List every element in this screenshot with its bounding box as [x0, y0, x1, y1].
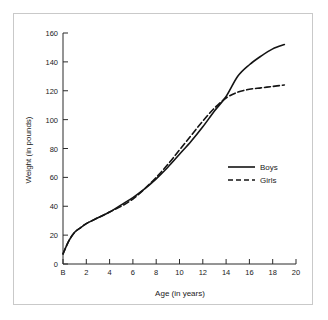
y-tick-label: 160	[45, 29, 58, 38]
series-line-boys	[63, 45, 284, 254]
axis-lines	[63, 33, 296, 264]
x-tick-label: 10	[175, 268, 183, 277]
x-tick-label: 14	[222, 268, 230, 277]
growth-chart: B2468101214161820 020406080100120140160 …	[0, 0, 328, 320]
y-tick-label: 100	[45, 116, 58, 125]
y-axis-title: Weight (in pounds)	[24, 116, 33, 183]
y-tick-label: 120	[45, 87, 58, 96]
x-tick-label: 20	[292, 268, 300, 277]
x-axis-title: Age (in years)	[155, 289, 205, 298]
y-tick-label: 140	[45, 58, 58, 67]
y-tick-label: 80	[50, 145, 58, 154]
y-tick-label: 0	[54, 260, 58, 269]
x-tick-label: 8	[154, 268, 158, 277]
chart-figure: B2468101214161820 020406080100120140160 …	[0, 0, 328, 320]
y-tick-label: 20	[50, 231, 58, 240]
x-tick-label: 16	[245, 268, 253, 277]
x-tick-label: 2	[84, 268, 88, 277]
x-tick-label: 4	[108, 268, 112, 277]
x-tick-label: B	[60, 268, 65, 277]
x-tick-label: 18	[269, 268, 277, 277]
y-tick-label: 40	[50, 202, 58, 211]
x-axis-tick-labels: B2468101214161820	[60, 268, 300, 277]
series-line-girls	[63, 85, 284, 254]
x-axis-ticks	[63, 259, 296, 264]
chart-legend: Boys Girls	[228, 163, 278, 185]
x-tick-label: 6	[131, 268, 135, 277]
data-series-group	[63, 45, 284, 254]
x-tick-label: 12	[199, 268, 207, 277]
legend-label-girls: Girls	[260, 176, 276, 185]
y-axis-ticks	[63, 33, 68, 264]
y-axis-tick-labels: 020406080100120140160	[45, 29, 58, 269]
legend-label-boys: Boys	[260, 163, 278, 172]
y-tick-label: 60	[50, 173, 58, 182]
